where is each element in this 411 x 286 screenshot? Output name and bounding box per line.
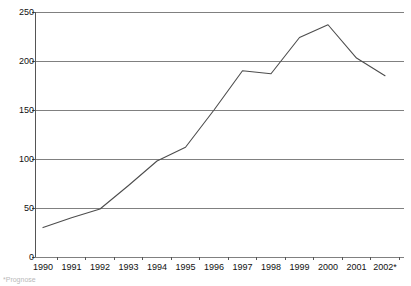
x-axis-labels: 1990199119921993199419951996199719981999… [0, 0, 411, 286]
x-axis-tick-label: 2001 [346, 263, 366, 272]
x-axis-tick-label: 1996 [204, 263, 224, 272]
x-axis-tick-label: 1990 [33, 263, 53, 272]
x-axis-tick-label: 1993 [118, 263, 138, 272]
footnote-text: *Prognose [3, 276, 36, 285]
x-axis-tick-label: 1997 [232, 263, 252, 272]
x-axis-tick-label: 2000 [318, 263, 338, 272]
x-axis-tick-label: 1992 [90, 263, 110, 272]
x-axis-tick-label: 1998 [261, 263, 281, 272]
x-axis-tick-label: 1991 [61, 263, 81, 272]
x-axis-tick-label: 2002* [373, 263, 397, 272]
x-axis-tick-label: 1995 [175, 263, 195, 272]
x-axis-tick-label: 1999 [289, 263, 309, 272]
x-axis-tick-label: 1994 [147, 263, 167, 272]
line-chart: 050100150200250 199019911992199319941995… [0, 0, 411, 286]
